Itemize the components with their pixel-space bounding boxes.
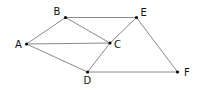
node-label-e: E	[141, 7, 147, 18]
node-e	[135, 16, 138, 19]
node-label-b: B	[54, 6, 61, 17]
nodes-group	[25, 16, 179, 74]
edge-a-b	[27, 18, 66, 45]
edge-b-c	[66, 18, 111, 44]
node-c	[108, 41, 111, 44]
node-a	[25, 42, 28, 45]
edges-group	[27, 18, 178, 73]
node-d	[86, 70, 89, 73]
node-label-f: F	[184, 67, 190, 78]
node-b	[64, 16, 67, 19]
node-label-d: D	[84, 75, 92, 86]
edge-a-d	[27, 44, 88, 72]
node-label-a: A	[15, 39, 22, 50]
graph-diagram: ABCDEF	[0, 0, 199, 90]
node-label-c: C	[114, 39, 121, 50]
node-f	[176, 70, 179, 73]
edge-a-c	[27, 43, 111, 44]
edge-e-f	[137, 18, 178, 73]
edge-c-d	[88, 43, 111, 72]
